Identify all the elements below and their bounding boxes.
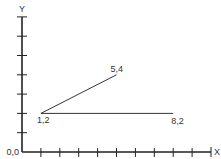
line-segment bbox=[41, 75, 117, 114]
x-axis-label: X bbox=[214, 147, 220, 157]
chart-canvas: 1,25,48,2 Y X 0,0 bbox=[0, 0, 221, 159]
point-label: 5,4 bbox=[111, 64, 124, 74]
line-segments bbox=[41, 75, 173, 114]
axes bbox=[22, 17, 211, 157]
y-axis-label: Y bbox=[19, 4, 25, 14]
origin-label: 0,0 bbox=[6, 147, 19, 157]
point-label: 1,2 bbox=[37, 115, 50, 125]
point-labels: 1,25,48,2 bbox=[37, 64, 184, 127]
point-label: 8,2 bbox=[171, 116, 184, 126]
